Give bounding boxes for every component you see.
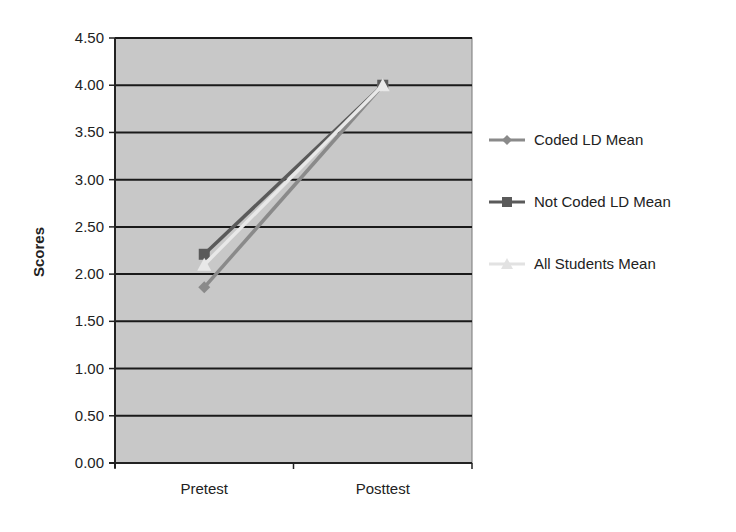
y-axis: 0.000.501.001.502.002.503.003.504.004.50 xyxy=(75,29,115,471)
legend-label: Coded LD Mean xyxy=(534,130,643,150)
x-axis: PretestPosttest xyxy=(109,463,472,497)
y-tick-label: 3.50 xyxy=(75,123,104,140)
triangle-marker-icon xyxy=(488,254,526,274)
plot-area xyxy=(115,38,472,463)
y-tick-label: 2.50 xyxy=(75,218,104,235)
y-tick-label: 1.50 xyxy=(75,312,104,329)
y-tick-label: 0.00 xyxy=(75,454,104,471)
square-marker-icon xyxy=(488,192,526,212)
legend-label: Not Coded LD Mean xyxy=(534,192,671,212)
diamond-marker-icon xyxy=(488,130,526,150)
y-tick-label: 1.00 xyxy=(75,360,104,377)
legend-item-all-students: All Students Mean xyxy=(488,254,736,316)
y-tick-label: 2.00 xyxy=(75,265,104,282)
legend-item-coded-ld: Coded LD Mean xyxy=(488,130,736,192)
legend: Coded LD Mean Not Coded LD Mean All Stud… xyxy=(488,130,736,316)
y-tick-label: 4.00 xyxy=(75,76,104,93)
legend-label: All Students Mean xyxy=(534,254,656,274)
y-tick-label: 4.50 xyxy=(75,29,104,46)
legend-item-not-coded-ld: Not Coded LD Mean xyxy=(488,192,736,254)
x-tick-label: Pretest xyxy=(180,480,228,497)
y-tick-label: 3.00 xyxy=(75,171,104,188)
y-tick-label: 0.50 xyxy=(75,407,104,424)
x-tick-label: Posttest xyxy=(356,480,411,497)
y-axis-title: Scores xyxy=(30,227,47,277)
